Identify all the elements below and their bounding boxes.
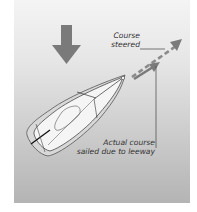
actual-course-label-line2: sailed due to leeway xyxy=(77,147,155,156)
actual-course-label: Actual course sailed due to leeway xyxy=(77,138,155,156)
course-steered-label-line1: Course xyxy=(111,31,140,40)
leeway-diagram xyxy=(0,0,197,212)
wind-arrow-icon xyxy=(52,25,81,64)
actual-course-label-line1: Actual course xyxy=(77,138,155,147)
course-steered-label-line2: steered xyxy=(111,40,140,49)
course-steered-label: Course steered xyxy=(111,31,140,49)
